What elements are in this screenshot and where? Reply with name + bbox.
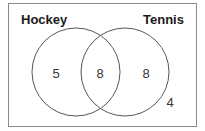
intersection-value: 8 — [96, 66, 103, 81]
venn-diagram: Hockey Tennis 5 8 8 4 — [0, 0, 205, 131]
neither-value: 4 — [166, 95, 173, 110]
hockey-only-value: 5 — [52, 66, 59, 81]
tennis-only-value: 8 — [142, 66, 149, 81]
tennis-label: Tennis — [143, 12, 184, 27]
hockey-label: Hockey — [21, 12, 68, 27]
